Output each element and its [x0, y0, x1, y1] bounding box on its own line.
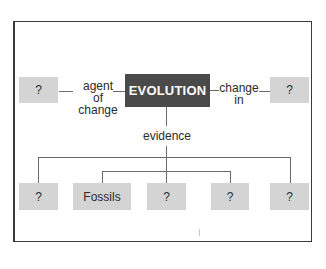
left-connector-inner: [113, 91, 125, 92]
change-label-line2: in: [217, 94, 261, 106]
change-in-node-label: ?: [286, 83, 293, 97]
evidence-node-fossils-label: Fossils: [83, 190, 120, 204]
inner-bracket-right-drop: [230, 171, 231, 183]
left-connector-outer: [59, 91, 73, 92]
evidence-node-4: ?: [211, 183, 249, 210]
change-in-label: change in: [217, 82, 261, 106]
evidence-node-3: ?: [147, 183, 186, 210]
inner-bracket: [102, 171, 231, 172]
evidence-node-5-label: ?: [286, 190, 293, 204]
evidence-node-5: ?: [270, 183, 309, 210]
agent-label-line2: of change: [73, 92, 123, 116]
agent-of-change-label: agent of change: [73, 80, 123, 116]
outer-bracket-left-drop: [38, 157, 39, 183]
evidence-node-1-label: ?: [35, 190, 42, 204]
evidence-connector-trunk: [166, 146, 167, 183]
stray-mark: [199, 229, 200, 236]
agent-of-change-node: ?: [19, 77, 58, 103]
evolution-label: EVOLUTION: [129, 83, 207, 98]
agent-of-change-node-label: ?: [35, 83, 42, 97]
outer-bracket-right-drop: [290, 157, 291, 183]
evidence-node-3-label: ?: [163, 190, 170, 204]
evolution-node: EVOLUTION: [125, 74, 210, 107]
evidence-label: evidence: [131, 130, 203, 142]
change-in-node: ?: [270, 77, 309, 103]
evidence-node-1: ?: [19, 183, 58, 210]
inner-bracket-left-drop: [102, 171, 103, 183]
evidence-node-fossils: Fossils: [73, 183, 131, 210]
outer-bracket: [38, 157, 291, 158]
evidence-connector-top: [166, 107, 167, 126]
right-connector-outer: [259, 91, 270, 92]
evidence-node-4-label: ?: [227, 190, 234, 204]
